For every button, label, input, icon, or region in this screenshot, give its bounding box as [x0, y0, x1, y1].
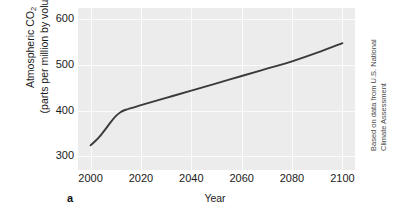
source-credit: Based on data from U.S. National Climate…	[369, 1, 389, 151]
co2-subscript: 2	[29, 7, 38, 11]
y-axis-tick-400: 400	[44, 104, 74, 116]
x-axis-tick-2060: 2060	[219, 172, 265, 184]
y-axis-tick-500: 500	[44, 58, 74, 70]
x-axis-tick-2000: 2000	[68, 172, 114, 184]
source-credit-line-2: Climate Assessment	[379, 1, 389, 151]
y-axis-tick-600: 600	[44, 12, 74, 24]
x-axis-tick-2040: 2040	[168, 172, 214, 184]
x-axis-tick-2020: 2020	[118, 172, 164, 184]
y-axis-tick-labels: 300400500600	[40, 0, 74, 223]
source-credit-line-1: Based on data from U.S. National	[369, 1, 379, 151]
x-axis-tick-2080: 2080	[269, 172, 315, 184]
y-axis-tick-300: 300	[44, 149, 74, 161]
x-axis-tick-labels: 200020202040206020802100	[0, 172, 404, 188]
x-axis-tick-2100: 2100	[319, 172, 365, 184]
plot-area	[78, 8, 355, 170]
figure-panel-a: Atmospheric CO2 (parts per million by vo…	[0, 0, 404, 223]
panel-letter: a	[67, 192, 73, 204]
data-line-svg	[78, 8, 355, 170]
x-axis-title: Year	[190, 192, 240, 204]
co2-trend-line	[91, 43, 343, 145]
y-axis-title-text: Atmospheric CO	[24, 11, 36, 88]
